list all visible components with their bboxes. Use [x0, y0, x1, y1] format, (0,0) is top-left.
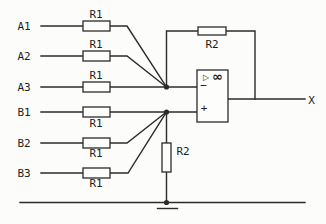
junction-dot-inverting [164, 84, 169, 89]
input-label-a1: A1 [17, 20, 30, 33]
output-label-x: X [308, 94, 315, 107]
resistor-label-r1-b1: R1 [89, 117, 102, 130]
resistor-body-r1-a2 [83, 51, 110, 61]
resistor-body-r1-a3 [83, 82, 110, 92]
resistor-label-r2-shunt: R2 [176, 145, 189, 158]
resistor-body-r2-shunt [162, 143, 171, 172]
resistor-label-r1-a1: R1 [89, 8, 102, 21]
input-label-a3: A3 [17, 81, 30, 94]
resistor-label-r1-b3: R1 [89, 177, 102, 190]
resistor-label-r1-b2: R1 [89, 147, 102, 160]
junction-dot-ground [164, 200, 169, 205]
resistor-label-r2-feedback: R2 [205, 38, 218, 51]
opamp-inverting-mark: − [200, 79, 207, 92]
schematic-canvas: A1 A2 A3 B1 B2 B3 R1 R1 R1 R1 R1 R1 R2 R… [0, 0, 326, 224]
opamp-infinity-icon: ∞ [212, 69, 223, 84]
input-label-a2: A2 [17, 50, 30, 63]
resistor-label-r1-a2: R1 [89, 38, 102, 51]
input-label-b2: B2 [17, 137, 30, 150]
circuit-diagram: A1 A2 A3 B1 B2 B3 R1 R1 R1 R1 R1 R1 R2 R… [0, 0, 326, 224]
input-label-b1: B1 [17, 106, 30, 119]
resistor-body-r2-feedback [198, 27, 226, 35]
opamp-noninverting-mark: + [201, 102, 208, 115]
resistor-label-r1-a3: R1 [89, 69, 102, 82]
resistor-body-r1-a1 [83, 21, 110, 31]
junction-dot-noninverting [164, 109, 169, 114]
input-label-b3: B3 [17, 167, 30, 180]
resistor-body-r1-b1 [83, 107, 110, 117]
